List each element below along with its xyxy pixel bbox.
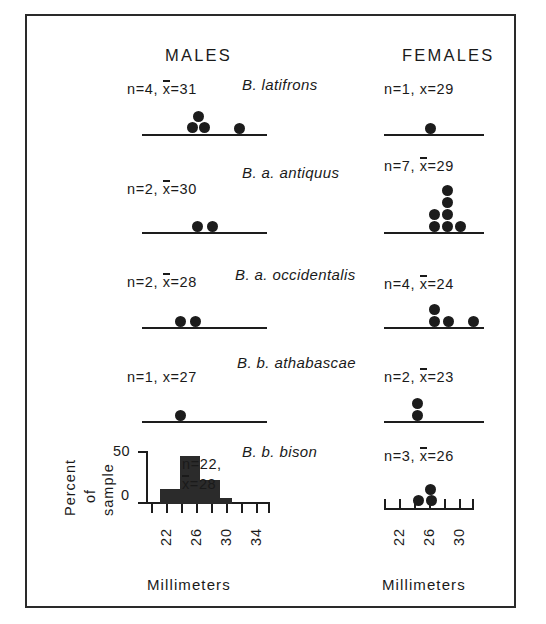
male-stats-occidentalis: n=2, x=28 bbox=[127, 274, 197, 290]
species-label-bison: B. b. bison bbox=[242, 443, 317, 460]
male-mean-value-occidentalis: =28 bbox=[171, 274, 197, 290]
figure-frame: MALES FEMALES B. latifrons n=4, x=31 n=1… bbox=[25, 14, 516, 608]
female-baseline-antiquus bbox=[384, 232, 484, 234]
male-n-occidentalis: n=2, bbox=[127, 274, 158, 290]
column-header-males: MALES bbox=[165, 46, 232, 65]
female-xtick-label-26: 26 bbox=[421, 528, 437, 546]
female-stats-athabascae: n=2, x=23 bbox=[384, 369, 454, 385]
male-n-athabascae: n=1, bbox=[127, 369, 158, 385]
male-xtick-label-22: 22 bbox=[158, 528, 174, 546]
yaxis-label-line2: of bbox=[82, 489, 98, 503]
dot bbox=[412, 410, 423, 421]
species-label-latifrons: B. latifrons bbox=[242, 76, 318, 93]
axis-tick bbox=[226, 504, 228, 513]
male-mean-value-latifrons: =31 bbox=[171, 81, 197, 97]
female-n-athabascae: n=2, bbox=[384, 369, 415, 385]
female-stats-latifrons: n=1, x=29 bbox=[384, 81, 454, 97]
female-stats-antiquus: n=7, x=29 bbox=[384, 158, 454, 174]
dot bbox=[468, 316, 479, 327]
female-baseline-latifrons bbox=[384, 134, 484, 136]
dot bbox=[455, 221, 466, 232]
dot bbox=[426, 495, 437, 506]
female-stats-occidentalis: n=4, x=24 bbox=[384, 276, 454, 292]
dot bbox=[425, 123, 436, 134]
dot bbox=[443, 316, 454, 327]
male-xtick-label-30: 30 bbox=[218, 528, 234, 546]
female-mean-value-antiquus: =29 bbox=[428, 158, 454, 174]
female-mean-symbol-antiquus: x bbox=[420, 158, 428, 174]
female-x-axis bbox=[384, 508, 474, 510]
female-mean-symbol-bison: x bbox=[420, 448, 428, 464]
female-mean-value-occidentalis: =24 bbox=[428, 276, 454, 292]
male-mean-symbol-latifrons: x bbox=[163, 81, 171, 97]
histogram-ytick-50 bbox=[138, 451, 147, 453]
male-mean-symbol-bison: x bbox=[182, 476, 190, 492]
yaxis-tick-0: 0 bbox=[121, 487, 130, 503]
histogram-y-axis bbox=[146, 451, 148, 504]
axis-tick bbox=[181, 504, 183, 513]
female-n-antiquus: n=7, bbox=[384, 158, 415, 174]
female-mean-symbol-occidentalis: x bbox=[420, 276, 428, 292]
axis-tick bbox=[151, 504, 153, 513]
male-mean-value-antiquus: =30 bbox=[171, 181, 197, 197]
dot bbox=[175, 316, 186, 327]
female-baseline-athabascae bbox=[384, 421, 484, 423]
axis-tick bbox=[429, 499, 431, 508]
dot bbox=[187, 122, 198, 133]
female-mean-value-athabascae: =23 bbox=[428, 369, 454, 385]
axis-tick bbox=[399, 499, 401, 508]
male-n-latifrons: n=4, bbox=[127, 81, 158, 97]
male-mean-value-athabascae: =27 bbox=[171, 369, 197, 385]
male-baseline-occidentalis bbox=[142, 327, 267, 329]
axis-tick bbox=[166, 504, 168, 513]
axis-tick bbox=[268, 504, 270, 513]
female-n-latifrons: n=1, bbox=[384, 81, 415, 97]
axis-tick bbox=[459, 499, 461, 508]
male-baseline-latifrons bbox=[142, 134, 267, 136]
male-mean-symbol-occidentalis: x bbox=[163, 274, 171, 290]
yaxis-label-line1: Percent bbox=[62, 459, 78, 516]
male-stats-athabascae: n=1, x=27 bbox=[127, 369, 197, 385]
female-mean-symbol-latifrons: x bbox=[420, 81, 428, 97]
male-stats-bison: x=28 bbox=[182, 476, 216, 492]
axis-tick bbox=[414, 499, 416, 508]
male-mean-symbol-antiquus: x bbox=[163, 181, 171, 197]
dot bbox=[429, 304, 440, 315]
axis-tick bbox=[472, 499, 474, 508]
male-mean-symbol-athabascae: x bbox=[163, 369, 171, 385]
dot bbox=[207, 221, 218, 232]
axis-tick bbox=[256, 504, 258, 513]
male-xtick-label-26: 26 bbox=[188, 528, 204, 546]
dot bbox=[192, 221, 203, 232]
female-baseline-occidentalis bbox=[384, 327, 484, 329]
column-header-females: FEMALES bbox=[402, 46, 494, 65]
axis-tick bbox=[211, 504, 213, 513]
species-label-occidentalis: B. a. occidentalis bbox=[235, 266, 356, 283]
dot bbox=[199, 122, 210, 133]
dot bbox=[193, 111, 204, 122]
male-axis-caption: Millimeters bbox=[147, 576, 231, 593]
histogram-bar bbox=[160, 489, 180, 504]
male-mean-value-bison: =28 bbox=[190, 476, 216, 492]
male-stats-latifrons: n=4, x=31 bbox=[127, 81, 197, 97]
dot bbox=[234, 123, 245, 134]
axis-tick bbox=[196, 504, 198, 513]
dot bbox=[429, 316, 440, 327]
dot bbox=[190, 316, 201, 327]
dot bbox=[442, 185, 453, 196]
yaxis-label-line3: sample bbox=[100, 463, 116, 516]
female-mean-value-latifrons: =29 bbox=[428, 81, 454, 97]
axis-tick bbox=[384, 499, 386, 508]
female-axis-caption: Millimeters bbox=[382, 576, 466, 593]
axis-tick bbox=[241, 504, 243, 513]
dot bbox=[175, 410, 186, 421]
axis-tick bbox=[444, 499, 446, 508]
male-baseline-athabascae bbox=[142, 421, 267, 423]
male-n-bison: n=22, bbox=[182, 456, 222, 472]
species-label-athabascae: B. b. athabascae bbox=[237, 354, 356, 371]
dot bbox=[429, 221, 440, 232]
male-xtick-label-34: 34 bbox=[248, 528, 264, 546]
dot bbox=[412, 398, 423, 409]
male-stats-antiquus: n=2, x=30 bbox=[127, 181, 197, 197]
female-n-bison: n=3, bbox=[384, 448, 415, 464]
